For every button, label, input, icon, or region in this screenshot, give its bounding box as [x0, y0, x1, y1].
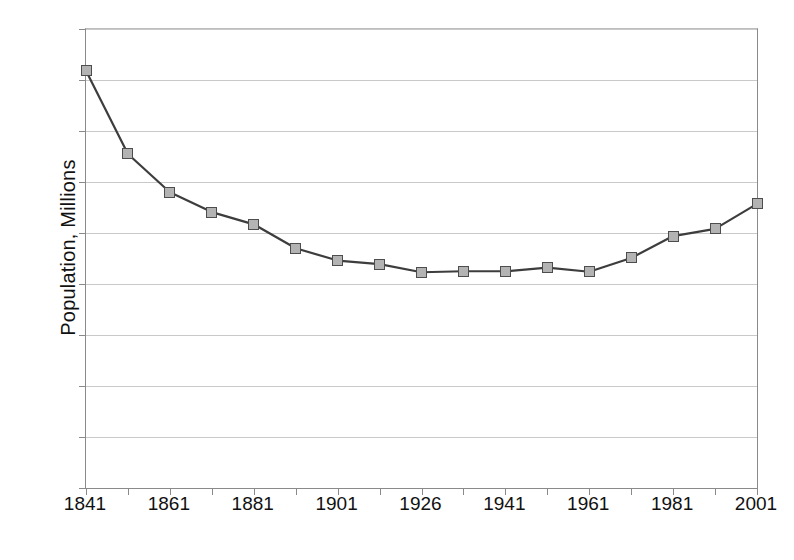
x-tick-label: 1841: [45, 494, 125, 513]
x-tick-label: 1861: [129, 494, 209, 513]
x-tick-label: 1881: [213, 494, 293, 513]
x-tick-label: 1901: [297, 494, 377, 513]
x-tick-label: 1926: [381, 494, 461, 513]
x-tick-label: 1941: [464, 494, 544, 513]
x-tick-label: 1981: [632, 494, 712, 513]
caption-sliver: [0, 548, 794, 560]
chart-figure: Population, Millions 0123456789 18411861…: [0, 0, 794, 560]
x-axis-label-group: 184118611881190119261941196119812001: [0, 0, 794, 560]
x-tick-label: 1961: [548, 494, 628, 513]
x-tick-label: 2001: [716, 494, 794, 513]
